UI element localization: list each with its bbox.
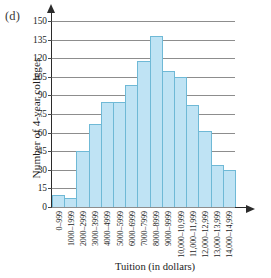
y-tick-label: 105 <box>33 72 47 82</box>
x-tick-label: 8000–8999 <box>152 211 161 246</box>
x-tick-label: 1000–1999 <box>66 211 75 246</box>
y-tick-mark <box>48 207 52 208</box>
panel-letter: (d) <box>5 9 20 24</box>
x-tick-label: 9000–9999 <box>164 211 173 246</box>
histogram-figure: (d) Number of 4-year colleges 0153045607… <box>0 0 271 278</box>
x-axis-arrow-icon <box>246 205 255 213</box>
y-tick-label: 60 <box>38 128 47 138</box>
x-tick-label: 14,000–14,999 <box>225 211 234 258</box>
y-tick-label: 90 <box>38 90 47 100</box>
x-tick-label: 0–999 <box>54 211 63 231</box>
x-tick-label: 7000–7999 <box>140 211 149 246</box>
gridline: 0 <box>52 207 235 208</box>
x-tick-label: 5000–5999 <box>115 211 124 246</box>
x-axis-title: Tuition (in dollars) <box>60 261 250 272</box>
x-tick-label: 10,000–10,999 <box>176 211 185 258</box>
y-tick-label: 0 <box>42 202 47 212</box>
plot-area: 0153045607590105120135150 0–9991000–1999… <box>52 21 235 207</box>
x-tick-label: 4000–4999 <box>103 211 112 246</box>
y-tick-label: 135 <box>33 35 47 45</box>
y-tick-label: 120 <box>33 53 47 63</box>
y-tick-label: 75 <box>38 109 47 119</box>
x-tick-label: 13,000–13,999 <box>213 211 222 258</box>
x-tick-label: 6000–6999 <box>127 211 136 246</box>
x-tick-label: 2000–2999 <box>79 211 88 246</box>
y-tick-label: 15 <box>38 183 47 193</box>
y-tick-label: 30 <box>38 165 47 175</box>
y-tick-label: 150 <box>33 16 47 26</box>
x-tick-label: 12,000–12,999 <box>201 211 210 258</box>
histogram-bar[interactable]: 14,000–14,999 <box>223 170 236 207</box>
y-axis-arrow-icon <box>47 4 55 13</box>
x-tick-label: 3000–3999 <box>91 211 100 246</box>
bar-series: 0–9991000–19992000–29993000–39994000–499… <box>52 21 235 207</box>
x-tick-label: 11,000–11,999 <box>188 211 197 257</box>
y-tick-label: 45 <box>38 146 47 156</box>
